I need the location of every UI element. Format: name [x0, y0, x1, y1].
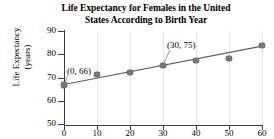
- data-point-30: [160, 63, 165, 68]
- y-tick-label-50-slot: 50: [38, 119, 56, 128]
- x-tick-label-40: 40: [185, 129, 207, 138]
- x-tick-label-10: 10: [86, 129, 108, 138]
- gridline-x-50: [229, 31, 230, 124]
- chart-title-line-1: Life Expectancy for Females in the Unite…: [26, 2, 266, 14]
- y-tick-label-80-slot: 80: [38, 49, 56, 58]
- annotation-label-0-66: (0, 66): [67, 66, 91, 76]
- y-tick-80: [58, 54, 64, 55]
- y-tick-label-60: 60: [38, 96, 56, 105]
- y-axis-title: Life Expectancy (years): [7, 9, 37, 105]
- y-tick-label-80: 80: [38, 49, 56, 58]
- data-point-0: [61, 82, 66, 87]
- gridline-x-20: [130, 31, 131, 124]
- life-expectancy-chart: Life Expectancy for Females in the Unite…: [0, 0, 274, 139]
- y-tick-label-90-slot: 90: [38, 26, 56, 35]
- x-tick-label-30: 30: [152, 129, 174, 138]
- gridline-x-40: [196, 31, 197, 124]
- chart-title-line-2: States According to Birth Year: [26, 14, 266, 26]
- gridline-x-30: [163, 31, 164, 124]
- y-tick-60: [58, 101, 64, 102]
- y-tick-label-90: 90: [38, 26, 56, 35]
- x-tick-label-50: 50: [218, 129, 240, 138]
- data-point-40: [193, 58, 198, 63]
- y-tick-label-50: 50: [38, 119, 56, 128]
- annotation-label-30-75: (30, 75): [167, 40, 196, 50]
- y-axis-title-line-1: Life Expectancy: [11, 27, 23, 86]
- x-tick-label-60: 60: [251, 129, 273, 138]
- annotation-leader-30-75: [164, 50, 170, 63]
- data-point-50: [226, 56, 231, 61]
- y-tick-70: [58, 78, 64, 79]
- chart-title: Life Expectancy for Females in the Unite…: [26, 2, 266, 26]
- y-tick-label-60-slot: 60: [38, 96, 56, 105]
- x-tick-label-20: 20: [119, 129, 141, 138]
- y-tick-label-70-slot: 70: [38, 73, 56, 82]
- x-tick-label-0: 0: [53, 129, 75, 138]
- y-axis-title-line-2: (years): [22, 45, 34, 70]
- y-tick-90: [58, 31, 64, 32]
- y-tick-label-70: 70: [38, 73, 56, 82]
- data-point-20: [127, 70, 132, 75]
- gridline-x-10: [97, 31, 98, 124]
- data-point-60: [259, 43, 264, 48]
- data-point-10: [94, 72, 99, 77]
